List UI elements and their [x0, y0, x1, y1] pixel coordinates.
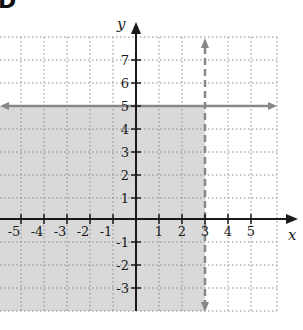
svg-text:6: 6 — [121, 76, 129, 91]
svg-text:1: 1 — [121, 191, 129, 206]
shaded-region — [0, 106, 205, 311]
svg-text:-3: -3 — [116, 281, 129, 296]
svg-text:4: 4 — [224, 224, 232, 239]
svg-text:2: 2 — [121, 168, 129, 183]
svg-text:7: 7 — [121, 53, 129, 68]
svg-text:3: 3 — [121, 145, 129, 160]
svg-text:-1: -1 — [100, 224, 113, 239]
svg-text:-2: -2 — [116, 258, 129, 273]
svg-text:2: 2 — [178, 224, 186, 239]
y-axis-label: y — [116, 15, 126, 33]
x-axis-label: x — [288, 226, 297, 244]
svg-text:-1: -1 — [116, 235, 129, 250]
svg-text:-2: -2 — [77, 224, 90, 239]
figure-label: D — [0, 0, 16, 13]
svg-text:-5: -5 — [8, 224, 21, 239]
svg-text:5: 5 — [247, 224, 255, 239]
svg-text:-3: -3 — [54, 224, 67, 239]
svg-text:1: 1 — [155, 224, 163, 239]
svg-text:-4: -4 — [31, 224, 44, 239]
svg-text:3: 3 — [201, 224, 209, 239]
svg-text:4: 4 — [121, 122, 129, 137]
inequality-graph: x y D -5 -4 -3 -2 -1 1 2 3 4 5 7 6 5 4 3… — [0, 0, 303, 330]
svg-text:5: 5 — [121, 99, 129, 114]
